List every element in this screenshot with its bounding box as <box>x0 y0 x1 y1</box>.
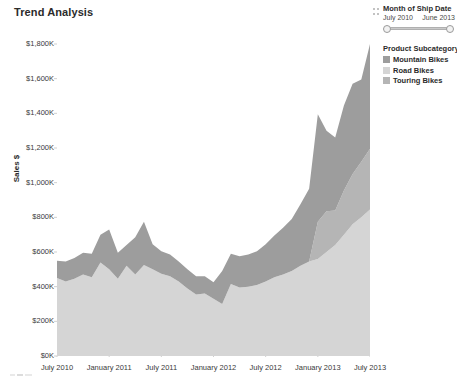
filter-title: Month of Ship Date <box>383 4 457 13</box>
stacked-area-chart <box>0 22 370 357</box>
y-axis-tick-label: $400K <box>2 282 54 291</box>
x-axis-tick-label: January 2013 <box>295 363 340 372</box>
x-axis-tick-label: July 2013 <box>354 363 386 372</box>
y-axis-tick-label: $800K <box>2 212 54 221</box>
filter-start-value: July 2010 <box>383 14 413 21</box>
y-axis-tick-label: $1,000K <box>2 178 54 187</box>
y-axis-tick-label: $1,400K <box>2 108 54 117</box>
drag-grip-icon[interactable] <box>373 8 379 15</box>
y-axis-tick-label: $0K <box>2 351 54 360</box>
x-axis-ticks: July 2010January 2011July 2011January 20… <box>57 363 370 377</box>
chart-container: Sales $ $1,800K$1,600K$1,400K$1,200K$1,0… <box>0 22 370 357</box>
slider-handle-end[interactable] <box>446 25 454 33</box>
y-axis-ticks: $1,800K$1,600K$1,400K$1,200K$1,000K$800K… <box>0 44 54 356</box>
x-axis-tick-label: July 2012 <box>250 363 282 372</box>
date-range-slider[interactable] <box>384 24 453 33</box>
x-axis-tick-label: July 2010 <box>41 363 73 372</box>
legend-item[interactable]: Road Bikes <box>383 66 457 75</box>
y-axis-tick-label: $200K <box>2 316 54 325</box>
legend-item-label: Mountain Bikes <box>393 55 448 64</box>
y-axis-tick-label: $1,200K <box>2 143 54 152</box>
legend-item[interactable]: Mountain Bikes <box>383 55 457 64</box>
y-axis-tick-label: $1,600K <box>2 74 54 83</box>
controls-panel: Month of Ship Date July 2010 June 2013 P… <box>372 4 457 87</box>
page-title: Trend Analysis <box>14 6 93 18</box>
x-axis-tick-label: January 2011 <box>87 363 132 372</box>
legend-item-label: Touring Bikes <box>393 76 442 85</box>
legend: Product Subcategory Mountain BikesRoad B… <box>383 44 457 85</box>
color-swatch-icon <box>383 77 390 84</box>
trend-analysis-visualization: Trend Analysis Sales $ $1,800K$1,600K$1,… <box>0 0 457 380</box>
y-axis-tick-label: $1,800K <box>2 39 54 48</box>
filter-range-labels: July 2010 June 2013 <box>383 14 455 21</box>
legend-items: Mountain BikesRoad BikesTouring Bikes <box>383 55 457 85</box>
x-axis-tick-label: July 2011 <box>146 363 178 372</box>
slider-handle-start[interactable] <box>383 25 391 33</box>
legend-item[interactable]: Touring Bikes <box>383 76 457 85</box>
date-range-filter-card: Month of Ship Date July 2010 June 2013 <box>372 4 457 35</box>
footer-mark-icon <box>10 373 32 377</box>
y-axis-tick-label: $600K <box>2 247 54 256</box>
filter-end-value: June 2013 <box>422 14 455 21</box>
slider-track[interactable] <box>384 27 453 30</box>
color-swatch-icon <box>383 56 390 63</box>
x-axis-tick-label: January 2012 <box>191 363 236 372</box>
color-swatch-icon <box>383 67 390 74</box>
legend-title: Product Subcategory <box>383 44 457 53</box>
legend-item-label: Road Bikes <box>393 66 434 75</box>
